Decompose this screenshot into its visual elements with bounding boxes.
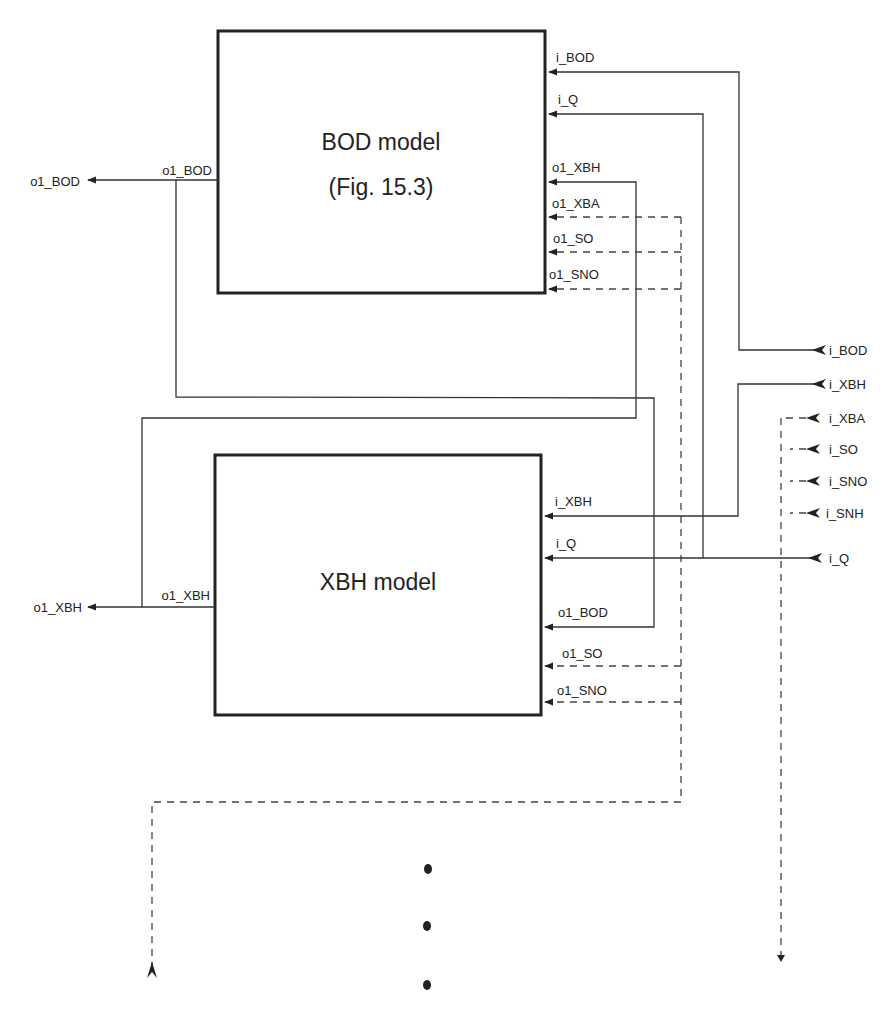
bod-port-o1-xbh: o1_XBH [552, 160, 600, 175]
bod-port-i-q: i_Q [558, 92, 578, 107]
xbh-model-title: XBH model [320, 569, 436, 595]
external-input-i-bod[interactable]: i_BOD [812, 343, 867, 358]
block-diagram: BOD model (Fig. 15.3) XBH model o1_BOD o… [0, 0, 896, 1010]
i-q-bod-wire [549, 114, 703, 558]
bod-model-block[interactable] [218, 31, 545, 293]
ext-output-o1-bod-label: o1_BOD [30, 174, 80, 189]
bod-output-port-label: o1_BOD [162, 163, 212, 178]
feather-arrow-icon [812, 379, 826, 389]
ext-input-label: i_SO [829, 442, 858, 457]
external-input-i-so[interactable]: i_SO [806, 442, 858, 457]
external-input-i-q[interactable]: i_Q [808, 551, 849, 566]
ext-input-label: i_BOD [829, 343, 867, 358]
bod-port-i-bod: i_BOD [556, 50, 594, 65]
external-input-i-snh[interactable]: i_SNH [806, 506, 864, 521]
xbh-port-o1-sno: o1_SNO [557, 683, 607, 698]
external-input-i-xbh[interactable]: i_XBH [812, 377, 866, 392]
bod-port-o1-xba: o1_XBA [552, 196, 600, 211]
dot-icon [423, 921, 431, 931]
bod-model-subtitle: (Fig. 15.3) [329, 174, 434, 200]
xbh-port-o1-bod: o1_BOD [558, 605, 608, 620]
ext-output-o1-xbh-label: o1_XBH [34, 600, 82, 615]
xbh-port-i-xbh: i_XBH [555, 494, 592, 509]
down-arrow-icon [777, 955, 785, 962]
feather-arrow-icon [806, 413, 820, 423]
feather-arrow-icon [806, 476, 820, 486]
xbh-port-i-q: i_Q [556, 536, 576, 551]
ext-input-label: i_Q [829, 551, 849, 566]
external-input-i-sno[interactable]: i_SNO [806, 474, 867, 489]
xbh-port-o1-so: o1_SO [562, 646, 602, 661]
ext-input-label: i_SNO [829, 474, 867, 489]
dot-icon [423, 980, 431, 990]
feather-arrow-icon [812, 345, 826, 355]
bod-model-title: BOD model [322, 129, 441, 155]
bod-port-o1-sno: o1_SNO [549, 267, 599, 282]
continuation-arrow-icon [147, 962, 157, 978]
ext-input-label: i_XBA [829, 411, 865, 426]
feather-arrow-icon [806, 444, 820, 454]
feather-arrow-icon [808, 553, 822, 563]
external-input-i-xba[interactable]: i_XBA [806, 411, 865, 426]
vertical-ellipsis [423, 864, 432, 990]
ext-input-label: i_SNH [826, 506, 864, 521]
dot-icon [424, 864, 432, 874]
bod-port-o1-so: o1_SO [553, 231, 593, 246]
ext-input-label: i_XBH [829, 377, 866, 392]
feather-arrow-icon [806, 508, 820, 518]
xbh-output-port-label: o1_XBH [162, 588, 210, 603]
